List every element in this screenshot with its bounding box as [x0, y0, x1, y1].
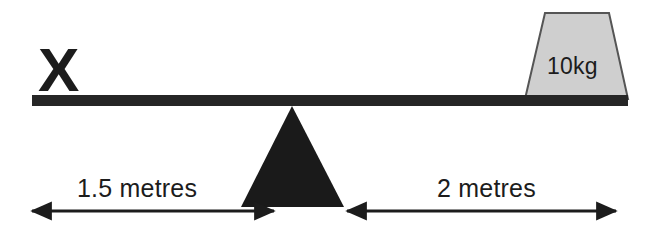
- lever-diagram-canvas: 10kg X 1.5 metres 2 metres: [0, 0, 653, 243]
- triangular-fulcrum: [241, 106, 344, 207]
- fulcrum-group: [241, 106, 344, 207]
- lever-beam: [32, 95, 628, 106]
- lever-diagram-svg: 10kg X 1.5 metres 2 metres: [0, 0, 653, 243]
- weight-block-label: 10kg: [547, 53, 598, 79]
- left-span-dimension-group: 1.5 metres: [32, 174, 274, 211]
- weight-block-group: 10kg: [525, 13, 628, 99]
- right-span-dimension-group: 2 metres: [347, 174, 616, 211]
- lever-beam-group: [32, 95, 628, 106]
- unknown-mass-marker-group: X: [38, 35, 79, 104]
- right-span-label: 2 metres: [437, 174, 536, 202]
- unknown-mass-marker-label: X: [38, 35, 79, 104]
- left-span-label: 1.5 metres: [77, 174, 197, 202]
